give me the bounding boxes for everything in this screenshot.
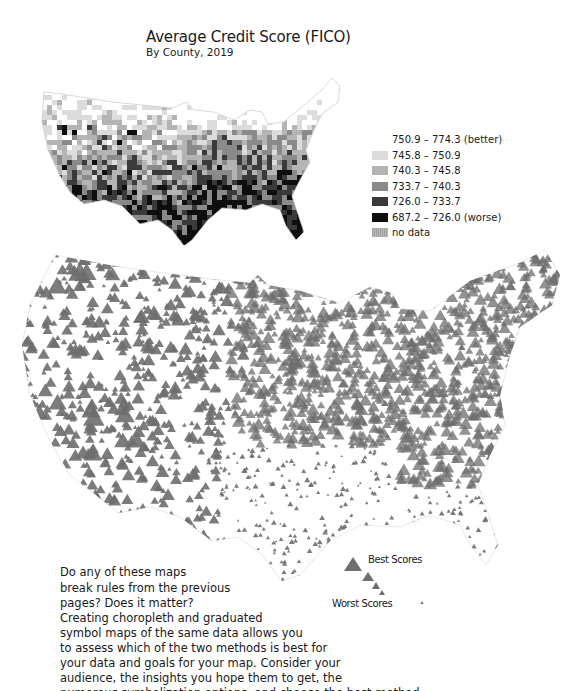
legend-item: 733.7 – 740.3 [372, 179, 502, 195]
question-line: break rules from the previous [60, 581, 245, 597]
legend-label: no data [392, 227, 430, 238]
legend-item: 687.2 – 726.0 (worse) [372, 210, 502, 226]
graduated-symbol-map [0, 245, 586, 585]
legend-label: 745.8 – 750.9 [392, 150, 461, 161]
legend-swatch [372, 182, 388, 191]
choropleth-map [22, 50, 352, 245]
body-line: audience, the insights you hope them to … [60, 671, 560, 686]
legend-label: 750.9 – 774.3 (better) [392, 134, 502, 145]
triangle-icon [372, 582, 380, 589]
triangle-icon [421, 601, 424, 604]
body-line: your data and goals for your map. Consid… [60, 656, 560, 671]
legend-swatch [372, 228, 388, 237]
question-line: pages? Does it matter? [60, 596, 245, 612]
legend-label: 687.2 – 726.0 (worse) [392, 212, 501, 223]
legend-swatch [372, 135, 388, 144]
body-line: Creating choropleth and graduated [60, 611, 560, 626]
worst-scores-label: Worst Scores [332, 598, 392, 609]
legend-item: 740.3 – 745.8 [372, 163, 502, 179]
best-scores-label: Best Scores [368, 554, 422, 565]
legend-item: 745.8 – 750.9 [372, 148, 502, 164]
body-line: numerous symbolization options, and choo… [60, 686, 560, 691]
question-line: Do any of these maps [60, 565, 245, 581]
triangle-icon [379, 590, 385, 595]
choropleth-legend: 750.9 – 774.3 (better) 745.8 – 750.9 740… [372, 132, 502, 241]
legend-item: 750.9 – 774.3 (better) [372, 132, 502, 148]
body-line: to assess which of the two methods is be… [60, 641, 560, 656]
legend-swatch [372, 213, 388, 222]
legend-swatch [372, 166, 388, 175]
legend-swatch [372, 151, 388, 160]
legend-item: no data [372, 225, 502, 241]
body-paragraph: Creating choropleth and graduated symbol… [60, 611, 560, 691]
legend-label: 733.7 – 740.3 [392, 181, 461, 192]
symbol-legend [340, 555, 430, 625]
triangle-icon [344, 557, 362, 571]
triangle-icon [362, 572, 374, 581]
legend-item: 726.0 – 733.7 [372, 194, 502, 210]
choropleth-title: Average Credit Score (FICO) [146, 28, 351, 46]
body-line: symbol maps of the same data allows you [60, 626, 560, 641]
question-text: Do any of these maps break rules from th… [60, 565, 245, 612]
legend-label: 726.0 – 733.7 [392, 196, 461, 207]
legend-label: 740.3 – 745.8 [392, 165, 461, 176]
legend-swatch [372, 197, 388, 206]
